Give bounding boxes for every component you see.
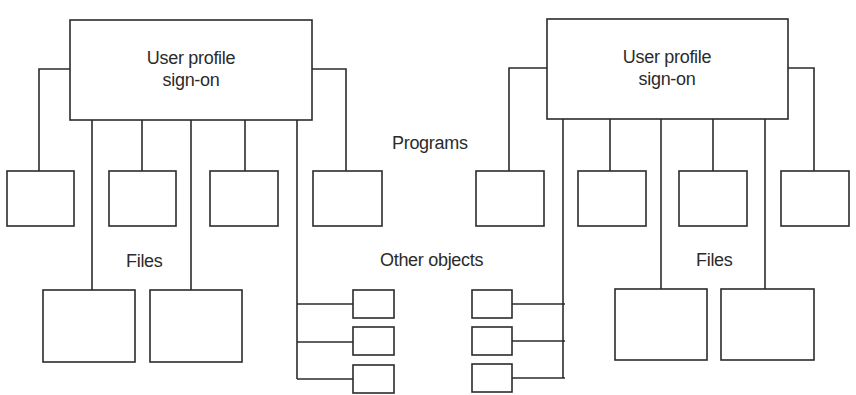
left-root-label: User profile sign-on xyxy=(71,47,311,91)
right-program-box-2 xyxy=(578,171,646,226)
right-connector-program-4 xyxy=(788,68,814,171)
right-root-label: User profile sign-on xyxy=(547,46,787,90)
diagram-canvas: User profile sign-on User profile sign-o… xyxy=(0,0,856,395)
left-connector-program-4 xyxy=(312,69,346,171)
left-other-object-box-2 xyxy=(353,327,394,355)
right-root-label-line1: User profile xyxy=(547,46,787,68)
right-root-label-line2: sign-on xyxy=(547,68,787,90)
left-root-label-line2: sign-on xyxy=(71,69,311,91)
left-program-box-1 xyxy=(7,171,74,226)
left-connector-program-1 xyxy=(39,69,70,171)
left-root-label-line1: User profile xyxy=(71,47,311,69)
left-other-object-box-1 xyxy=(353,290,394,318)
right-other-object-box-2 xyxy=(472,327,512,355)
left-program-box-4 xyxy=(313,171,382,226)
left-file-box-2 xyxy=(150,290,242,362)
right-file-box-2 xyxy=(721,289,814,360)
left-other-object-box-3 xyxy=(353,365,394,393)
programs-label: Programs xyxy=(392,132,468,154)
right-connector-program-1 xyxy=(509,68,547,171)
left-files-label: Files xyxy=(126,250,163,272)
right-program-box-4 xyxy=(781,171,849,226)
left-file-box-1 xyxy=(43,290,135,362)
left-program-box-2 xyxy=(109,171,176,226)
right-other-object-box-3 xyxy=(472,364,512,392)
right-program-box-3 xyxy=(679,171,747,226)
right-other-object-box-1 xyxy=(472,290,512,318)
other-objects-label: Other objects xyxy=(380,249,483,271)
right-program-box-1 xyxy=(476,171,544,226)
right-file-box-1 xyxy=(615,289,707,360)
right-files-label: Files xyxy=(696,249,733,271)
left-program-box-3 xyxy=(210,171,278,226)
